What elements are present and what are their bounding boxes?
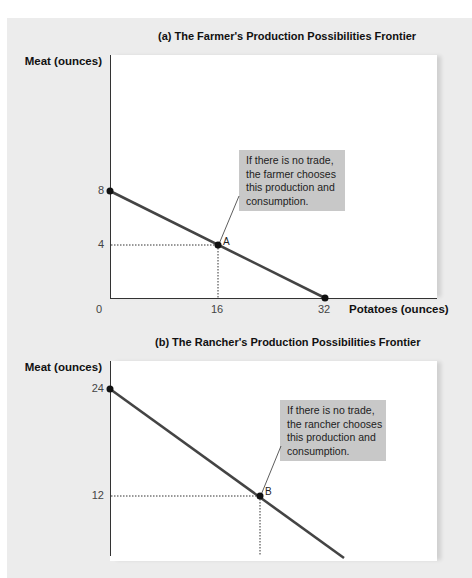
chart-a-point-intercept-x (322, 295, 329, 302)
chart-b-point-b-label: B (265, 486, 272, 497)
chart-a-point-intercept-y (107, 188, 114, 195)
chart-a-point-a-label: A (223, 236, 230, 247)
chart-a-point-a (215, 242, 222, 249)
chart-b-ppf-line (110, 389, 344, 558)
chart-b-point-b (257, 493, 264, 500)
chart-b-point-intercept-y (107, 386, 114, 393)
